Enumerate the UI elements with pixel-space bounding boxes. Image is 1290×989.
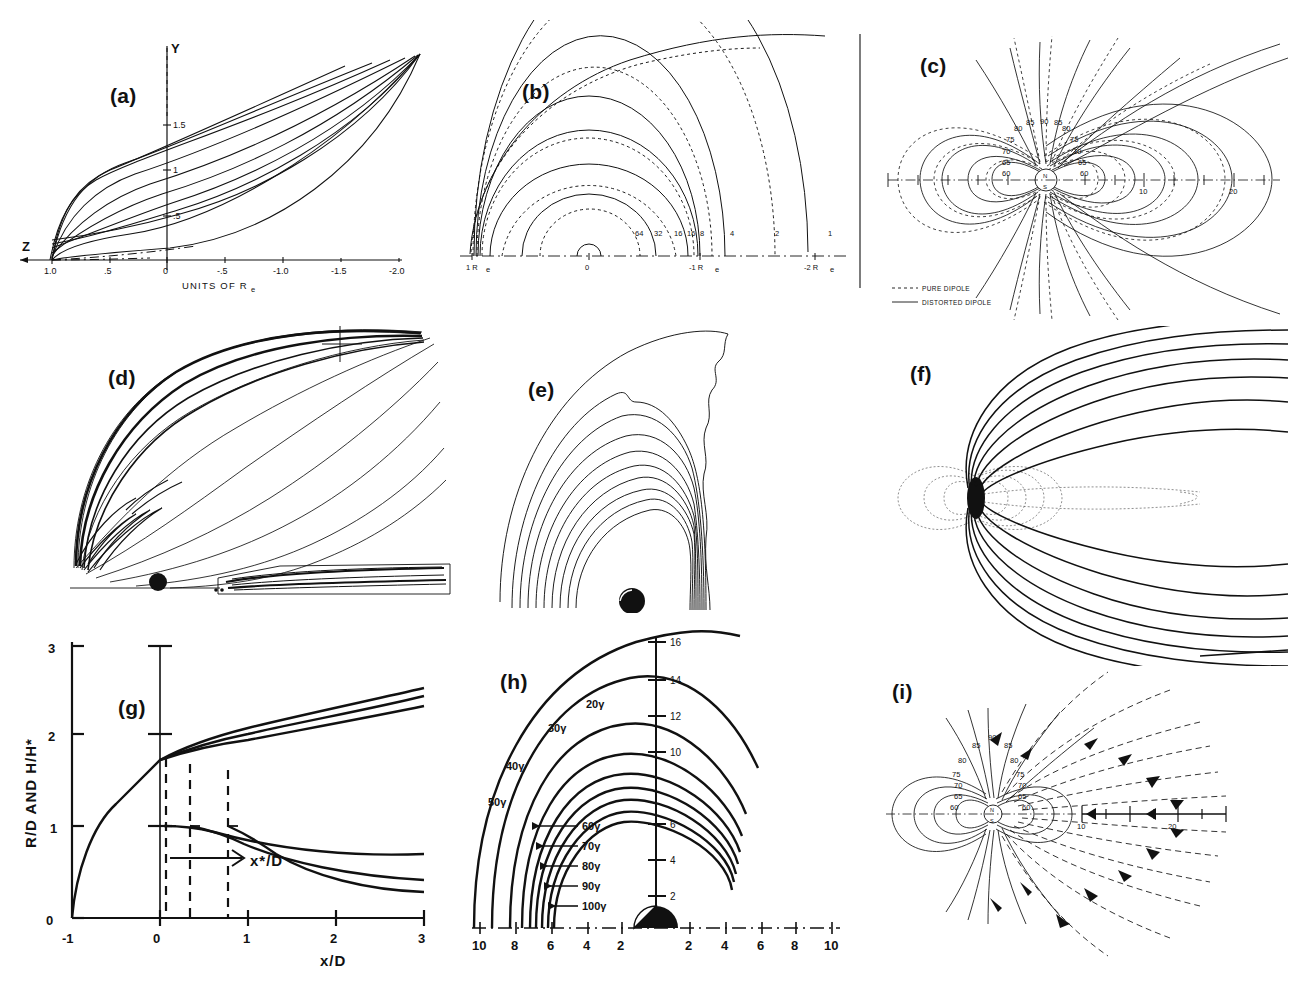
panel-b-axis-label-2: -1 R bbox=[689, 263, 704, 272]
svg-text:e: e bbox=[830, 265, 834, 274]
panel-g-x-axis-label: x/D bbox=[320, 952, 346, 969]
panel-i-lat-left-1: 65 bbox=[954, 792, 962, 801]
panel-a-xtick-6: -2.0 bbox=[389, 266, 405, 276]
panel-c-lat-left-3: 75 bbox=[1006, 135, 1014, 144]
figure-sheet: 1.0 .5 0 -.5 -1.0 -1.5 -2.0 1.5 1 .5 Y Z… bbox=[0, 0, 1290, 989]
panel-h-ytick-16: 16 bbox=[670, 637, 682, 648]
svg-text:e: e bbox=[486, 265, 490, 274]
panel-a-xtick-2: 0 bbox=[163, 266, 168, 276]
panel-h-xtick-1: 8 bbox=[511, 938, 518, 953]
panel-h-ytick-10: 10 bbox=[670, 747, 682, 758]
panel-b-axis-label-0: 1 R bbox=[466, 263, 478, 272]
panel-h-contour-30: 30γ bbox=[548, 722, 567, 734]
panel-b-contour-label-4: 8 bbox=[700, 229, 704, 238]
panel-h-contour-20: 20γ bbox=[586, 698, 605, 710]
panel-b-contour-label-7: 1 bbox=[828, 229, 832, 238]
panel-g-annotation-label: x*/D bbox=[250, 852, 283, 869]
svg-text:e: e bbox=[715, 265, 719, 274]
panel-b-contour-label-0: 64 bbox=[635, 229, 643, 238]
panel-c-tag: (c) bbox=[920, 54, 947, 78]
panel-c-lat-right-2: 70 bbox=[1073, 147, 1081, 156]
panel-c-lat-right-1: 65 bbox=[1078, 158, 1086, 167]
panel-h-xtick-0: 10 bbox=[472, 938, 486, 953]
panel-b-contour-label-2: 16 bbox=[674, 229, 682, 238]
panel-c-lat-left-4: 80 bbox=[1014, 124, 1022, 133]
panel-i: N S 10 20 60 65 70 75 80 85 bbox=[870, 648, 1290, 989]
panel-c-lat-left-0: 60 bbox=[1002, 169, 1010, 178]
panel-g-xtick-3: 2 bbox=[330, 931, 337, 946]
panel-c-xtick-0: 10 bbox=[1139, 187, 1147, 196]
panel-c-legend: PURE DIPOLE DISTORTED DIPOLE bbox=[892, 285, 992, 306]
panel-d: (d) bbox=[40, 318, 460, 613]
panel-c-legend-label-1: DISTORTED DIPOLE bbox=[922, 299, 992, 306]
panel-h-xtick-6: 4 bbox=[721, 938, 729, 953]
panel-c-lat-left-2: 70 bbox=[1002, 147, 1010, 156]
panel-g-tag: (g) bbox=[118, 696, 146, 720]
panel-g-ytick-3: 3 bbox=[48, 641, 55, 656]
panel-i-lat-left-3: 75 bbox=[952, 770, 960, 779]
panel-a: 1.0 .5 0 -.5 -1.0 -1.5 -2.0 1.5 1 .5 Y Z… bbox=[0, 8, 430, 308]
panel-i-pole-s: S bbox=[990, 818, 994, 824]
panel-a-ytick-1: 1 bbox=[173, 165, 178, 175]
panel-a-ytick-0: 1.5 bbox=[173, 120, 186, 130]
panel-d-inset bbox=[214, 564, 450, 594]
panel-h-legend-80: 80γ bbox=[582, 860, 601, 872]
panel-h-xtick-3: 4 bbox=[583, 938, 591, 953]
panel-g-ytick-1: 1 bbox=[50, 821, 57, 836]
panel-b: 1 R e 0 -1 R e -2 R e 64 32 16 16 8 4 2 … bbox=[430, 20, 870, 310]
panel-c-xtick-1: 20 bbox=[1229, 187, 1237, 196]
panel-g-y-axis-label: R/D AND H/H* bbox=[22, 738, 39, 848]
panel-i-lat-right-0: 60 bbox=[1022, 803, 1030, 812]
panel-a-x-axis-label: UNITS OF R bbox=[182, 280, 248, 291]
panel-h-xtick-7: 6 bbox=[757, 938, 764, 953]
panel-h-ytick-12: 12 bbox=[670, 711, 682, 722]
panel-c-pole-s: S bbox=[1043, 184, 1047, 190]
panel-h-xtick-9: 10 bbox=[824, 938, 838, 953]
panel-h: 16 14 12 10 6 4 2 10 8 6 4 bbox=[440, 628, 860, 989]
panel-g: 0 1 2 3 -1 0 1 2 3 x/D R/D AND H/H* x*/D… bbox=[0, 618, 440, 989]
panel-a-xtick-0: 1.0 bbox=[44, 266, 57, 276]
panel-i-lat-right-5: 85 bbox=[1004, 741, 1012, 750]
panel-a-xtick-5: -1.5 bbox=[331, 266, 347, 276]
panel-i-lat-right-1: 65 bbox=[1018, 792, 1026, 801]
panel-h-ytick-4: 4 bbox=[670, 855, 676, 866]
panel-h-xtick-5: 2 bbox=[685, 938, 692, 953]
panel-h-ytick-2: 2 bbox=[670, 891, 676, 902]
panel-g-annotation-arrow bbox=[170, 850, 244, 866]
panel-e: (e) bbox=[460, 318, 860, 613]
panel-c-lat-right-4: 80 bbox=[1062, 124, 1070, 133]
panel-b-contour-label-5: 4 bbox=[730, 229, 734, 238]
panel-a-y-axis-name: Y bbox=[171, 41, 180, 56]
panel-a-ytick-2: .5 bbox=[173, 211, 181, 221]
panel-g-ytick-2: 2 bbox=[48, 729, 55, 744]
panel-i-xtick-0: 10 bbox=[1077, 822, 1085, 831]
panel-c-lat-right-5: 85 bbox=[1054, 118, 1062, 127]
panel-i-pole-n: N bbox=[990, 807, 994, 813]
panel-i-lat-right-4: 80 bbox=[1010, 756, 1018, 765]
panel-b-axis-label-1: 0 bbox=[585, 263, 589, 272]
panel-b-tag: (b) bbox=[522, 80, 550, 104]
panel-e-tag: (e) bbox=[528, 378, 555, 402]
panel-f-tag: (f) bbox=[910, 362, 932, 386]
panel-a-xtick-1: .5 bbox=[104, 266, 112, 276]
panel-a-xtick-4: -1.0 bbox=[273, 266, 289, 276]
panel-c-lat-right-3: 75 bbox=[1070, 135, 1078, 144]
panel-c-lat-right-0: 60 bbox=[1080, 169, 1088, 178]
panel-i-tag: (i) bbox=[892, 680, 913, 704]
panel-i-lat-right-2: 70 bbox=[1018, 781, 1026, 790]
panel-i-xtick-1: 20 bbox=[1168, 822, 1176, 831]
panel-h-legend-100: 100γ bbox=[582, 900, 607, 912]
panel-h-xtick-4: 2 bbox=[617, 938, 624, 953]
panel-c-lat-top: 90 bbox=[1040, 117, 1048, 126]
panel-c-lat-left-5: 85 bbox=[1026, 118, 1034, 127]
panel-d-tag: (d) bbox=[108, 366, 136, 390]
panel-c-pole-n: N bbox=[1043, 173, 1047, 179]
panel-h-contour-40: 40γ bbox=[506, 760, 525, 772]
panel-h-xtick-2: 6 bbox=[547, 938, 554, 953]
panel-d-planet bbox=[149, 573, 167, 591]
panel-e-planet bbox=[619, 588, 645, 613]
panel-g-ytick-0: 0 bbox=[46, 913, 53, 928]
panel-b-contour-label-3: 16 bbox=[687, 229, 695, 238]
panel-g-xtick-1: 0 bbox=[153, 931, 160, 946]
panel-c: 10 20 N S 60 65 70 75 80 85 90 60 65 70 … bbox=[880, 14, 1290, 324]
